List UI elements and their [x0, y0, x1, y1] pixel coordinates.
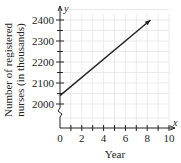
- y-tick-label: 2100: [32, 77, 55, 89]
- y-tick-label: 2300: [32, 35, 55, 47]
- series-line: [60, 20, 150, 96]
- chart-svg: 200021002200230024000246810 Number of re…: [0, 0, 181, 163]
- data-series: [60, 20, 150, 96]
- y-tick-label: 2000: [32, 98, 55, 110]
- x-axis-title: Year: [105, 148, 126, 160]
- y-tick-label: 2400: [32, 14, 55, 26]
- grid-lines: [60, 10, 169, 129]
- x-tick-label: 6: [123, 132, 129, 144]
- axes: [58, 6, 175, 130]
- y-axis-title-line-1: Number of registered: [2, 22, 14, 117]
- x-tick-label: 8: [144, 132, 150, 144]
- x-tick-label: 10: [164, 132, 176, 144]
- y-axis-title-line-2: nurses (in thousands): [14, 23, 27, 117]
- x-tick-label: 2: [79, 132, 85, 144]
- y-axis-variable: y: [63, 3, 69, 14]
- y-tick-label: 2200: [32, 56, 55, 68]
- y-axis-break: [58, 108, 62, 117]
- x-tick-label: 4: [101, 132, 107, 144]
- x-axis-variable: x: [172, 117, 178, 128]
- x-tick-label: 0: [57, 132, 63, 144]
